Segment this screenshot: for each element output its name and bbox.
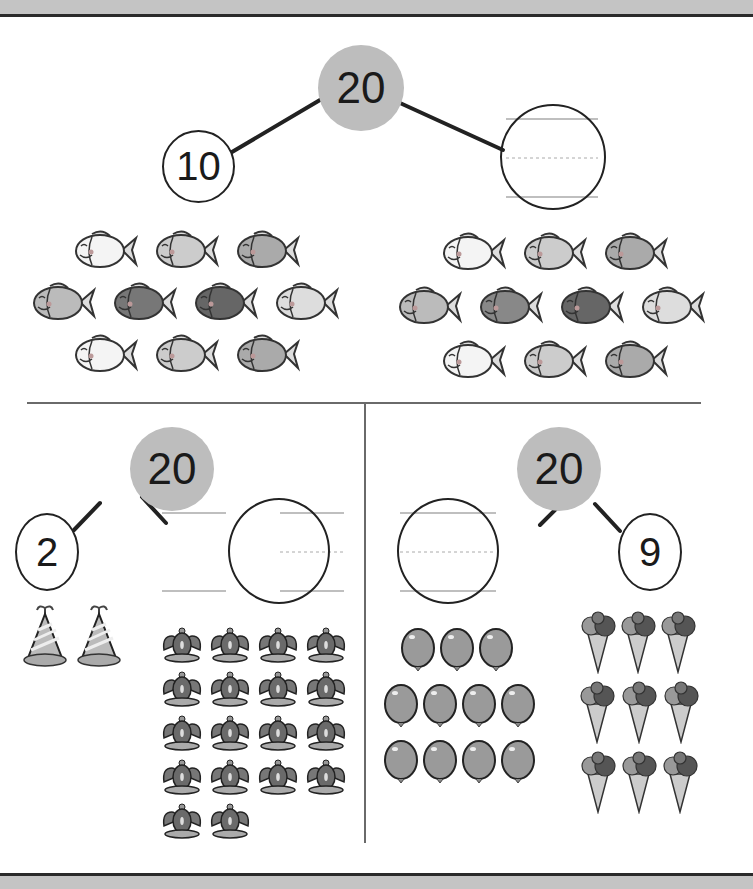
balloon-icon — [500, 740, 536, 790]
right-part-answer-bottom-left[interactable] — [228, 498, 330, 604]
left-part-circle-top: 10 — [162, 130, 235, 203]
fish-icon — [111, 280, 177, 328]
balloon-icon — [400, 628, 436, 678]
crown-icon — [160, 626, 204, 668]
crown-icon — [160, 802, 204, 844]
balloon-icon — [500, 684, 536, 734]
fish-icon — [192, 280, 258, 328]
balloon-icon — [383, 740, 419, 790]
fish-icon — [602, 230, 668, 278]
crown-icon — [208, 714, 252, 756]
crown-icon — [160, 670, 204, 712]
fish-icon — [153, 228, 219, 276]
crown-icon — [160, 714, 204, 756]
ice-cream-cone-icon — [580, 750, 616, 818]
whole-circle-bottom-left: 20 — [130, 427, 214, 511]
crown-icon — [256, 758, 300, 800]
balloon-icon — [383, 684, 419, 734]
fish-icon — [521, 338, 587, 386]
balloon-icon — [422, 684, 458, 734]
ice-cream-cone-icon — [580, 610, 616, 678]
crown-icon — [304, 626, 348, 668]
ice-cream-cone-icon — [662, 750, 698, 818]
crown-icon — [256, 714, 300, 756]
crown-icon — [208, 758, 252, 800]
fish-icon — [72, 228, 138, 276]
fish-icon — [72, 332, 138, 380]
crown-icon — [208, 626, 252, 668]
whole-circle-bottom-right: 20 — [517, 427, 601, 511]
crown-icon — [256, 626, 300, 668]
right-part-answer-top[interactable] — [500, 104, 606, 210]
fish-icon — [396, 284, 462, 332]
crown-icon — [160, 758, 204, 800]
crown-icon — [304, 670, 348, 712]
left-part-circle-bottom-left: 2 — [15, 513, 79, 591]
fish-icon — [234, 228, 300, 276]
fish-icon — [521, 230, 587, 278]
ice-cream-cone-icon — [663, 680, 699, 748]
balloon-icon — [461, 740, 497, 790]
fish-icon — [234, 332, 300, 380]
ice-cream-cone-icon — [579, 680, 615, 748]
crown-icon — [256, 670, 300, 712]
ice-cream-cone-icon — [621, 680, 657, 748]
fish-icon — [602, 338, 668, 386]
party-hat-icon — [76, 604, 122, 674]
party-hat-icon — [22, 604, 68, 674]
ice-cream-cone-icon — [621, 750, 657, 818]
crown-icon — [304, 758, 348, 800]
fish-icon — [558, 284, 624, 332]
crown-icon — [304, 714, 348, 756]
fish-icon — [30, 280, 96, 328]
right-part-circle-bottom-right: 9 — [618, 513, 682, 591]
balloon-icon — [439, 628, 475, 678]
whole-circle-top: 20 — [318, 45, 404, 131]
ice-cream-cone-icon — [660, 610, 696, 678]
ice-cream-cone-icon — [620, 610, 656, 678]
balloon-icon — [478, 628, 514, 678]
left-part-answer-bottom-right[interactable] — [397, 498, 499, 604]
fish-icon — [153, 332, 219, 380]
fish-icon — [440, 230, 506, 278]
crown-icon — [208, 802, 252, 844]
fish-icon — [639, 284, 705, 332]
balloon-icon — [461, 684, 497, 734]
fish-icon — [273, 280, 339, 328]
fish-icon — [477, 284, 543, 332]
fish-icon — [440, 338, 506, 386]
crown-icon — [208, 670, 252, 712]
balloon-icon — [422, 740, 458, 790]
